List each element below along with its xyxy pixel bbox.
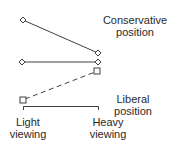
series-1-line	[23, 20, 98, 53]
label-light-line1: Light	[2, 116, 54, 128]
series-2	[19, 59, 101, 65]
label-heavy-line2: viewing	[80, 128, 136, 140]
series-3-line	[25, 72, 95, 99]
label-liberal-position: Liberal position	[108, 93, 158, 117]
square-marker-icon	[20, 97, 26, 103]
diamond-marker-icon	[95, 50, 101, 56]
label-liberal-line1: Liberal	[108, 93, 158, 105]
diamond-marker-icon	[95, 59, 101, 65]
label-conservative-line2: position	[100, 26, 170, 38]
square-marker-icon	[94, 68, 100, 74]
diamond-marker-icon	[20, 17, 26, 23]
label-conservative-position: Conservative position	[100, 14, 170, 38]
label-light-viewing: Light viewing	[2, 116, 54, 140]
series-1	[20, 17, 101, 56]
x-axis-bracket	[24, 107, 99, 111]
series-3	[20, 68, 100, 103]
diamond-marker-icon	[19, 59, 25, 65]
label-light-line2: viewing	[2, 128, 54, 140]
label-conservative-line1: Conservative	[100, 14, 170, 26]
label-heavy-line1: Heavy	[80, 116, 136, 128]
label-heavy-viewing: Heavy viewing	[80, 116, 136, 140]
